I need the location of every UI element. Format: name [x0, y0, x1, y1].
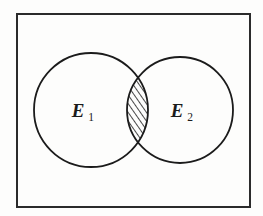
- venn-diagram-figure: E 1 E 2: [0, 0, 263, 216]
- set-label-e2: E 2: [170, 100, 193, 123]
- venn-diagram-canvas: E 1 E 2: [0, 0, 263, 216]
- intersection-hatch-fill: [110, 60, 180, 160]
- intersection-region: [110, 60, 180, 160]
- set-label-e2-letter: E: [170, 100, 184, 121]
- set-label-e1-letter: E: [71, 100, 85, 121]
- set-label-e1-subscript: 1: [88, 111, 94, 123]
- set-label-e1: E 1: [71, 100, 94, 123]
- set-label-e2-subscript: 2: [187, 111, 193, 123]
